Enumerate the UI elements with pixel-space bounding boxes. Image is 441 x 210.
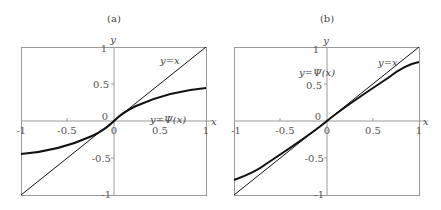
curve-label-psi: y=Ψ(x) <box>298 67 335 78</box>
figure: (a) -1 -0.5 0 0.5 1 1 0.5 0 -0.5 -1 y x … <box>0 0 441 210</box>
y-axis-label: y <box>322 35 329 46</box>
panel-a: (a) -1 -0.5 0 0.5 1 1 0.5 0 -0.5 -1 y x … <box>16 13 217 200</box>
x-tick-label: -0.5 <box>57 125 76 136</box>
x-tick-label: -1 <box>231 125 241 136</box>
x-tick-label: 0 <box>111 125 117 136</box>
panel-a-title: (a) <box>107 13 121 24</box>
x-tick-label: 0.5 <box>365 125 381 136</box>
y-axis-label: y <box>109 34 116 45</box>
y-tick-label: 1 <box>313 44 319 55</box>
y-tick-label: -0.5 <box>92 153 111 164</box>
line-label-y-equals-x: y=x <box>377 57 398 68</box>
y-tick-label: -0.5 <box>305 153 324 164</box>
y-tick-label: 0.5 <box>93 79 109 90</box>
y-tick-label: -1 <box>101 189 111 200</box>
y-tick-label: 1 <box>101 43 107 54</box>
x-tick-label: 0 <box>324 125 330 136</box>
x-axis-label: x <box>211 116 217 127</box>
line-label-y-equals-x: y=x <box>159 55 180 66</box>
x-tick-label: 1 <box>416 125 422 136</box>
x-axis-label: x <box>423 116 429 127</box>
panel-b-title: (b) <box>320 13 334 24</box>
y-tick-label: 0.5 <box>306 80 322 91</box>
x-tick-label: -0.5 <box>275 125 294 136</box>
curve-label-psi: y=Ψ(x) <box>149 114 186 125</box>
y-tick-label: 0 <box>102 111 108 122</box>
x-tick-label: 1 <box>203 125 209 136</box>
y-tick-label: 0 <box>315 111 321 122</box>
x-tick-label: 0.5 <box>152 125 168 136</box>
x-tick-label: -1 <box>16 125 26 136</box>
y-tick-label: -1 <box>314 189 324 200</box>
panel-b: (b) -1 -0.5 0 0.5 1 1 0.5 0 -0.5 -1 y x … <box>231 13 429 200</box>
